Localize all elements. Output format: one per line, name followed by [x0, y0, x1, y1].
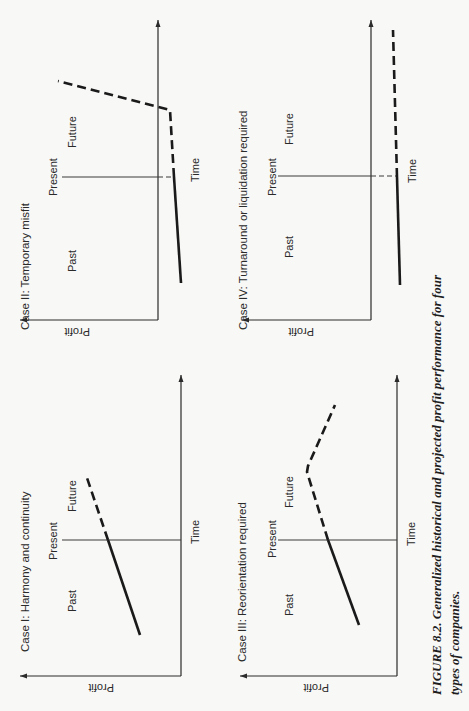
future-label: Future [66, 116, 78, 148]
caption-line-1: FIGURE 8.2. Generalized historical and p… [429, 274, 444, 696]
panel-title: Case I: Harmony and continuity [19, 491, 31, 652]
time-axis-label: Time [405, 522, 417, 546]
past-label: Past [283, 594, 295, 616]
panel-case-4: Case IV: Turnaround or liquidation requi… [237, 20, 418, 338]
present-label: Present [47, 158, 59, 196]
past-label: Past [283, 236, 295, 258]
future-label: Future [283, 476, 295, 508]
past-label: Past [66, 250, 78, 272]
present-label: Present [47, 522, 59, 560]
historical-profit-line [397, 177, 400, 285]
present-label: Present [266, 520, 278, 558]
panel-title: Case IV: Turnaround or liquidation requi… [237, 111, 249, 330]
profit-axis-label: Profit [288, 326, 314, 338]
time-axis-label: Time [406, 159, 418, 183]
panel-title: Case II: Temporary misfit [19, 202, 31, 330]
historical-profit-line [328, 540, 359, 625]
historical-profit-line [174, 177, 181, 283]
figure-caption: FIGURE 8.2. Generalized historical and p… [429, 274, 462, 696]
profit-axis-label: Profit [88, 682, 114, 694]
past-label: Past [66, 590, 78, 612]
future-label: Future [66, 480, 78, 512]
book-page: Case II: Temporary misfit Past Present F… [0, 0, 469, 711]
projected-profit-line [86, 475, 108, 540]
panel-case-2: Case II: Temporary misfit Past Present F… [19, 20, 201, 338]
panel-case-1: Case I: Harmony and continuity Past Pres… [19, 375, 201, 694]
panel-case-3: Case III: Reorientation required Past Pr… [236, 375, 417, 694]
present-label: Present [266, 158, 278, 196]
profit-axis-label: Profit [64, 326, 90, 338]
projected-profit-line [307, 405, 335, 540]
time-axis-label: Time [189, 158, 201, 182]
historical-profit-line [108, 540, 140, 635]
time-axis-label: Time [189, 520, 201, 544]
profit-axis-label: Profit [303, 682, 329, 694]
future-label: Future [283, 113, 295, 145]
panel-title: Case III: Reorientation required [236, 502, 248, 662]
projected-profit-line [393, 30, 397, 177]
figure-canvas: Case II: Temporary misfit Past Present F… [0, 0, 469, 711]
caption-line-2: types of companies. [447, 591, 462, 695]
